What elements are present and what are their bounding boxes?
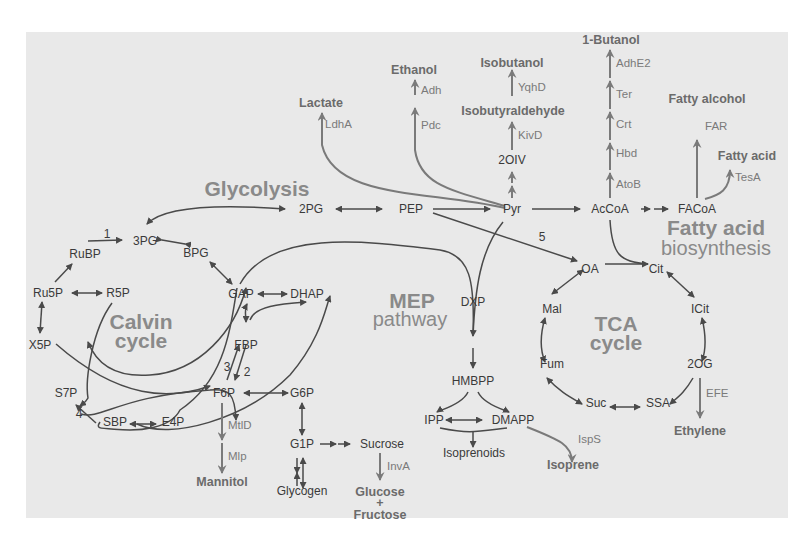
metabolite-bpg: BPG	[183, 247, 208, 259]
metabolite-hmbpp: HMBPP	[452, 375, 495, 387]
metabolite-cit: Cit	[649, 263, 664, 275]
enzyme-mtld: MtlD	[228, 420, 252, 432]
metabolite-pyr: Pyr	[503, 203, 521, 215]
product-lactate: Lactate	[299, 97, 343, 110]
metabolite-ipp: IPP	[424, 414, 443, 426]
region-title-fatty-acid-line2: biosynthesis	[661, 239, 771, 258]
enzyme-ter: Ter	[616, 89, 632, 101]
metabolite-accoa: AcCoA	[591, 203, 628, 215]
metabolite-dxp: DXP	[461, 296, 486, 308]
product-fatty-alcohol: Fatty alcohol	[668, 93, 745, 106]
step-number-3: 3	[224, 361, 231, 373]
metabolite-2og: 2OG	[687, 358, 712, 370]
enzyme-efe: EFE	[706, 388, 728, 400]
metabolite-rubp: RuBP	[69, 248, 100, 260]
metabolite-suc: Suc	[586, 397, 607, 409]
enzyme-atob: AtoB	[616, 179, 641, 191]
enzyme-isps: IspS	[578, 434, 601, 446]
enzyme-kivd: KivD	[518, 130, 542, 142]
region-title-glycolysis: Glycolysis	[204, 179, 309, 199]
product-ethylene: Ethylene	[674, 425, 726, 438]
metabolite-g1p: G1P	[290, 438, 314, 450]
metabolite-e4p: E4P	[162, 416, 185, 428]
product-isobutanol: Isobutanol	[480, 57, 543, 70]
enzyme-hbd: Hbd	[616, 148, 637, 160]
enzyme-adhe2: AdhE2	[616, 58, 651, 70]
product-fatty-acid: Fatty acid	[718, 150, 776, 163]
metabolite-glycogen: Glycogen	[277, 485, 328, 497]
metabolite-sucrose: Sucrose	[360, 438, 404, 450]
metabolite-ru5p: Ru5P	[33, 287, 63, 299]
metabolite-mal: Mal	[542, 303, 561, 315]
metabolite-fbp: FBP	[234, 339, 257, 351]
product-isobutyraldehyde: Isobutyraldehyde	[461, 105, 565, 118]
step-number-4: 4	[76, 408, 83, 420]
step-number-1: 1	[104, 228, 111, 240]
metabolite-icit: ICit	[691, 303, 709, 315]
metabolite-x5p: X5P	[29, 339, 52, 351]
enzyme-adh: Adh	[421, 85, 441, 97]
metabolite-sbp: SBP	[103, 416, 127, 428]
metabolite-r5p: R5P	[106, 287, 129, 299]
product-isoprene: Isoprene	[547, 459, 599, 472]
enzyme-mlp: Mlp	[228, 451, 247, 463]
metabolite-3pg: 3PG	[133, 235, 157, 247]
product-fructose: Fructose	[354, 509, 407, 522]
metabolite-s7p: S7P	[55, 387, 78, 399]
region-title-tca-line2: cycle	[590, 333, 643, 353]
metabolite-fum: Fum	[540, 358, 564, 370]
metabolite-dmapp: DMAPP	[492, 414, 535, 426]
product-mannitol: Mannitol	[196, 476, 247, 489]
metabolite-2pg: 2PG	[299, 203, 323, 215]
metabolite-g6p: G6P	[290, 387, 314, 399]
enzyme-pdc: Pdc	[421, 120, 441, 132]
metabolite-2oiv: 2OIV	[498, 154, 525, 166]
enzyme-ldha: LdhA	[325, 119, 352, 131]
metabolite-isoprenoids: Isoprenoids	[443, 447, 505, 459]
metabolite-gap: GAP	[228, 288, 253, 300]
step-number-2: 2	[244, 366, 251, 378]
metabolite-f6p: F6P	[213, 387, 235, 399]
metabolite-ssa: SSA	[646, 397, 670, 409]
enzyme-far: FAR	[705, 121, 727, 133]
enzyme-crt: Crt	[616, 119, 631, 131]
enzyme-inva: InvA	[387, 461, 410, 473]
product-1-butanol: 1-Butanol	[582, 34, 640, 47]
metabolite-oa: OA	[581, 263, 598, 275]
region-title-fatty-acid-line1: Fatty acid	[667, 218, 765, 238]
enzyme-tesa: TesA	[735, 172, 761, 184]
product-ethanol: Ethanol	[391, 64, 437, 77]
region-title-calvin-line2: cycle	[115, 331, 168, 351]
metabolite-pep: PEP	[399, 203, 423, 215]
step-number-5: 5	[539, 231, 546, 243]
enzyme-yqhd: YqhD	[518, 82, 546, 94]
region-title-mep-line2: pathway	[373, 310, 448, 329]
metabolite-dhap: DHAP	[290, 288, 323, 300]
metabolite-facoa: FACoA	[678, 203, 716, 215]
